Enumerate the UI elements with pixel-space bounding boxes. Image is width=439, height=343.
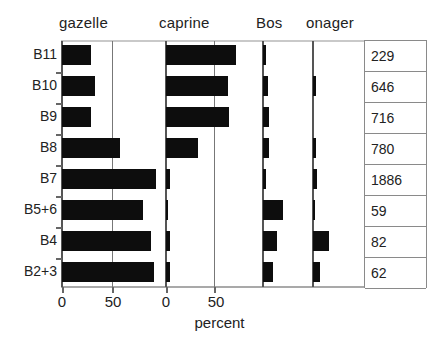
row-tick-1	[56, 72, 62, 74]
xtick-label-gazelle-0: 0	[58, 293, 66, 310]
bar-bos-b11	[263, 45, 266, 65]
xtick-label-caprine-50: 50	[208, 293, 225, 310]
bar-caprine-b4	[166, 231, 170, 251]
row-label-b10: B10	[32, 77, 57, 93]
bar-gazelle-b11	[62, 45, 91, 65]
bar-onager-b7	[313, 169, 317, 189]
count-cell-b4: 82	[365, 227, 426, 258]
faunal-percentage-figure: gazelle caprine Bos onager B11 B10 B9 B8…	[0, 0, 439, 343]
bar-bos-b5-6	[263, 200, 283, 220]
row-label-b2-3: B2+3	[24, 263, 57, 279]
bar-gazelle-b5-6	[62, 200, 143, 220]
row-tick-3	[56, 134, 62, 136]
bar-onager-b8	[313, 138, 316, 158]
bar-bos-b7	[263, 169, 266, 189]
bar-onager-b10	[313, 76, 316, 96]
count-cell-b11: 229	[365, 41, 426, 72]
row-tick-4	[56, 165, 62, 167]
row-label-b4: B4	[40, 232, 57, 248]
count-cell-b5-6: 59	[365, 196, 426, 227]
bar-gazelle-b4	[62, 231, 151, 251]
bar-bos-b8	[263, 138, 269, 158]
bar-gazelle-b2-3	[62, 262, 154, 282]
row-tick-2	[56, 103, 62, 105]
panel-header-caprine: caprine	[159, 14, 210, 31]
bar-onager-b2-3	[313, 262, 320, 282]
bar-bos-b2-3	[263, 262, 273, 282]
panel-header-onager: onager	[306, 14, 354, 31]
xtick-label-caprine-0: 0	[162, 293, 170, 310]
count-cell-b8: 780	[365, 134, 426, 165]
count-cell-b10: 646	[365, 72, 426, 103]
plot-bottom-rule	[61, 286, 364, 288]
bar-bos-b9	[263, 107, 269, 127]
plot-top-rule	[61, 40, 364, 42]
row-label-b11: B11	[33, 46, 57, 62]
row-label-b8: B8	[40, 139, 57, 155]
xtick-label-gazelle-50: 50	[105, 293, 122, 310]
bar-onager-b4	[313, 231, 329, 251]
bar-caprine-b7	[166, 169, 170, 189]
bar-gazelle-b8	[62, 138, 120, 158]
bar-caprine-b11	[166, 45, 236, 65]
bar-caprine-b8	[166, 138, 198, 158]
count-cell-b2-3: 62	[365, 258, 426, 289]
specimen-count-table: 229 646 716 780 1886 59 82 62	[364, 40, 427, 288]
bar-gazelle-b7	[62, 169, 156, 189]
bar-onager-b5-6	[313, 200, 315, 220]
panel-header-gazelle: gazelle	[59, 14, 108, 31]
row-label-b7: B7	[40, 170, 57, 186]
bar-caprine-b2-3	[166, 262, 170, 282]
bar-gazelle-b10	[62, 76, 95, 96]
count-cell-b9: 716	[365, 103, 426, 134]
row-tick-7	[56, 258, 62, 260]
bar-caprine-b9	[166, 107, 229, 127]
row-tick-5	[56, 196, 62, 198]
bar-bos-b10	[263, 76, 268, 96]
row-label-b5-6: B5+6	[24, 201, 57, 217]
x-axis-title: percent	[0, 314, 439, 331]
count-cell-b7: 1886	[365, 165, 426, 196]
panel-header-bos: Bos	[256, 14, 282, 31]
bar-bos-b4	[263, 231, 277, 251]
bar-caprine-b10	[166, 76, 228, 96]
row-label-b9: B9	[40, 108, 57, 124]
bar-gazelle-b9	[62, 107, 91, 127]
bar-caprine-b5-6	[166, 200, 168, 220]
row-label-column: B11 B10 B9 B8 B7 B5+6 B4 B2+3	[0, 41, 57, 287]
row-tick-6	[56, 227, 62, 229]
